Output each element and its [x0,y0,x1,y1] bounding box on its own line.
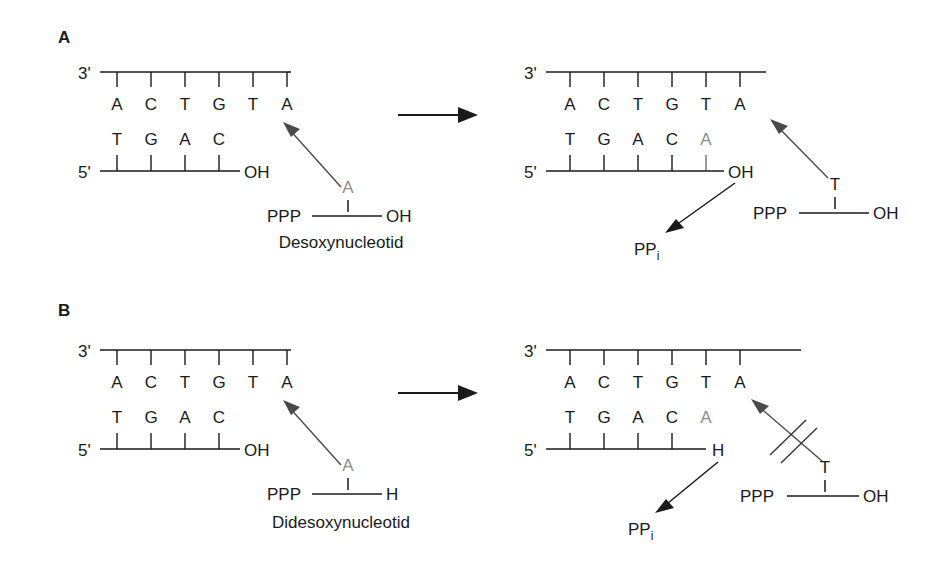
panel-b-right-template-base-2: C [598,373,610,392]
figure-root: A 3' A C T G T A T G A C 5' [0,0,949,584]
panel-a-ppi-subscript: i [657,249,660,263]
panel-b-right-incoming-right-group: OH [863,487,889,506]
panel-a-ppi-text: PP [634,240,657,259]
panel-a-left-five-prime-label: 5' [78,163,91,182]
panel-b-left-template-base-1: A [111,373,123,392]
panel-a-left-template-base-1: A [111,95,123,114]
panel-b-label: B [58,301,70,320]
panel-a-caption: Desoxynucleotid [279,233,404,252]
panel-b-caption: Didesoxynucleotid [272,513,410,532]
panel-a-right-primer-base-3: A [632,130,644,149]
panel-b-ppi-text: PP [628,520,651,539]
panel-a-right-incoming-base: T [830,175,840,194]
sanger-sequencing-diagram: A 3' A C T G T A T G A C 5' [0,0,949,584]
panel-a-left-template-base-2: C [145,95,157,114]
panel-b-right-incoming-base: T [820,458,830,477]
panel-a-right-template-base-5: T [701,95,711,114]
panel-b-left-primer-base-3: A [179,408,191,427]
panel-b-right-primer-base-4: C [666,408,678,427]
panel-b-right-template-base-5: T [701,373,711,392]
panel-b-left-template-base-5: T [248,373,258,392]
panel-a-left-incoming-left-group: PPP [267,207,301,226]
panel-b-left-incoming-right-group: H [386,485,398,504]
panel-a-right-template-base-2: C [598,95,610,114]
panel-a-right-primer-base-2: G [597,130,610,149]
panel-b-right-primer-base-1: T [565,408,575,427]
panel-b-left-template-base-3: T [180,373,190,392]
panel-a-right-primer-terminus: OH [728,163,754,182]
panel-b-right-template-base-6: A [734,373,746,392]
panel-a-left-primer-base-4: C [213,130,225,149]
panel-b-ppi-subscript: i [651,529,654,543]
panel-a-left-primer-base-1: T [112,130,122,149]
panel-b-right-five-prime-label: 5' [524,441,537,460]
panel-b-left-primer-base-2: G [144,408,157,427]
panel-a-left-incoming-right-group: OH [386,207,412,226]
panel-b-right-template-base-1: A [564,373,576,392]
panel-b-left-primer-base-4: C [213,408,225,427]
panel-b-left-incoming-left-group: PPP [267,485,301,504]
panel-b-left-primer-terminus: OH [244,441,270,460]
panel-b-left-five-prime-label: 5' [78,441,91,460]
panel-b-left-incoming-base: A [342,456,354,475]
panel-b-left-three-prime-label: 3' [78,342,91,361]
panel-a-left-template-base-5: T [248,95,258,114]
panel-b-right-primer-terminus: H [712,441,724,460]
panel-a-left-primer-base-2: G [144,130,157,149]
panel-b-left-template-base-6: A [281,373,293,392]
panel-a-right-template-base-3: T [633,95,643,114]
panel-a-right-primer-base-1: T [565,130,575,149]
panel-a-right-incoming-right-group: OH [873,204,899,223]
panel-a-label: A [58,28,70,47]
panel-b-right-primer-base-2: G [597,408,610,427]
panel-a-right-primer-base-4: C [666,130,678,149]
panel-a-right-template-base-6: A [734,95,746,114]
panel-b-left-template-base-4: G [212,373,225,392]
panel-b-left-primer-base-1: T [112,408,122,427]
panel-a-right-three-prime-label: 3' [524,64,537,83]
panel-b-left-template-base-2: C [145,373,157,392]
panel-a-right-incoming-left-group: PPP [753,204,787,223]
panel-a-right-template-base-4: G [665,95,678,114]
panel-a-right-template-base-1: A [564,95,576,114]
panel-a-right-five-prime-label: 5' [524,163,537,182]
panel-a-left-three-prime-label: 3' [78,64,91,83]
panel-b-right-template-base-3: T [633,373,643,392]
panel-b-right-incoming-left-group: PPP [740,487,774,506]
panel-a-left-template-base-4: G [212,95,225,114]
panel-a-left-primer-terminus: OH [244,163,270,182]
panel-b-right-three-prime-label: 3' [524,342,537,361]
panel-a-left-template-base-3: T [180,95,190,114]
panel-b-right-primer-base-3: A [632,408,644,427]
panel-b-right-template-base-4: G [665,373,678,392]
panel-a-left-primer-base-3: A [179,130,191,149]
panel-a-left-template-base-6: A [281,95,293,114]
panel-a-left-incoming-base: A [342,178,354,197]
panel-a-right-added-base: A [700,130,712,149]
panel-b-right-added-base: A [700,408,712,427]
